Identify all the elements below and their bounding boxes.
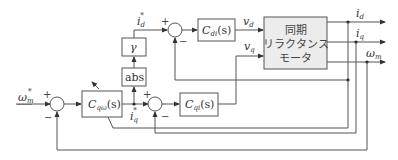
omega-m-output-label: ωm [366,47,382,61]
gamma-block: γ [122,38,146,56]
q-current-summing-junction: + − [143,89,169,122]
speed-summing-junction: + − [43,89,64,123]
c-q-omega-block: Cqω(s) [82,91,122,117]
iq-output-label: iq [356,27,365,41]
vd-label: vd [243,15,254,29]
tuning-arrow-icon [92,82,99,89]
c-qi-block: Cqi(s) [180,93,218,116]
synchronous-reluctance-motor-block: 同期 リラクタンス モータ [263,17,329,69]
svg-text:リラクタンス: リラクタンス [263,38,329,51]
vq-label: vq [244,40,255,54]
block-diagram: ωm* + − Cqω(s) iq* abs γ id* + − Cdi(s) [0,0,398,160]
id-ref-label: id* [137,11,146,29]
id-output-label: id [356,7,365,21]
svg-text:γ: γ [130,41,137,54]
svg-text:−: − [44,112,52,123]
iq-ref-label: iq* [130,106,139,124]
svg-text:−: − [161,111,169,122]
c-di-block: Cdi(s) [198,19,235,41]
svg-text:+: + [143,89,151,100]
svg-text:Cqi(s): Cqi(s) [185,98,214,112]
svg-text:+: + [161,16,169,27]
svg-text:+: + [43,89,51,100]
svg-text:−: − [179,36,187,47]
d-current-summing-junction: + − [161,16,187,47]
svg-text:同期: 同期 [285,24,307,37]
svg-text:モータ: モータ [279,52,312,65]
abs-block: abs [122,68,146,86]
svg-text:abs: abs [125,71,145,84]
svg-text:Cdi(s): Cdi(s) [202,24,231,38]
svg-text:ωm*: ωm* [18,87,34,105]
